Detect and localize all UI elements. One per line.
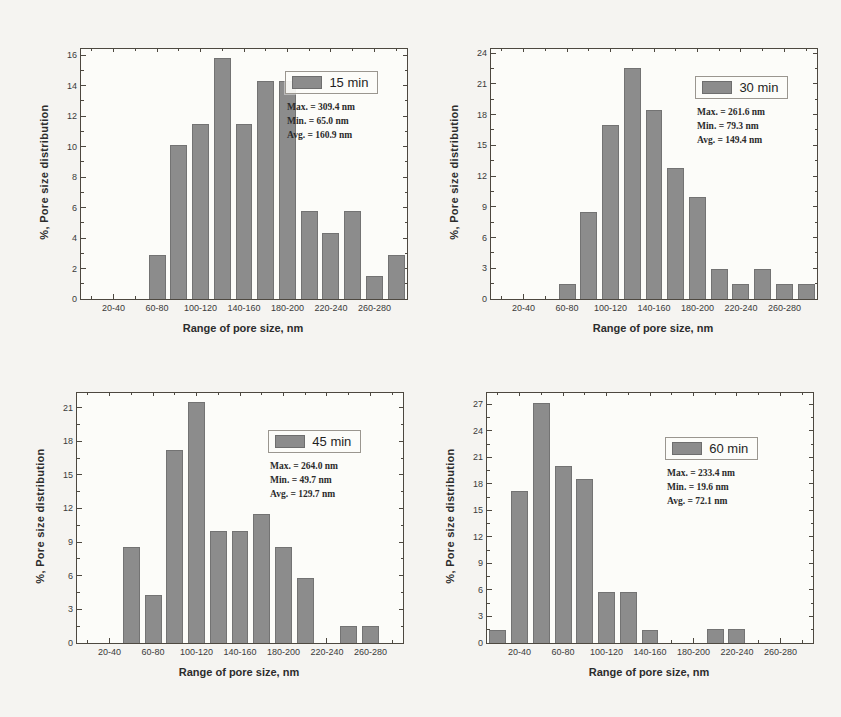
y-minor-tick	[487, 576, 490, 577]
bar	[145, 595, 162, 643]
y-major-tick	[809, 616, 813, 617]
x-tick	[374, 49, 375, 52]
x-tick	[261, 393, 262, 395]
bar	[728, 629, 745, 643]
y-minor-tick	[491, 283, 494, 284]
y-axis-title: %, Pore size distribution	[38, 47, 50, 297]
y-minor-tick	[77, 592, 80, 593]
y-minor-tick	[405, 131, 407, 132]
x-tick	[370, 393, 371, 396]
x-tick	[326, 393, 327, 396]
y-minor-tick	[811, 444, 813, 445]
y-minor-tick	[487, 470, 490, 471]
bar	[620, 592, 637, 643]
x-tick	[305, 393, 306, 395]
y-major-tick	[813, 237, 817, 238]
y-tick-label: 12	[457, 532, 483, 542]
x-tick	[87, 393, 88, 395]
y-minor-tick	[811, 523, 813, 524]
y-major-tick	[403, 238, 407, 239]
plot-area: 036912151821242720-4060-80100-120140-160…	[486, 392, 814, 644]
y-minor-tick	[405, 100, 407, 101]
y-major-tick	[813, 83, 817, 84]
x-tick	[244, 49, 245, 52]
stats-annotation: Max. = 264.0 nm Min. = 49.7 nm Avg. = 12…	[270, 459, 338, 501]
x-tick-label: 140-160	[637, 303, 670, 313]
y-major-tick	[403, 177, 407, 178]
y-minor-tick	[401, 458, 403, 459]
stats-annotation: Max. = 309.4 nm Min. = 65.0 nm Avg. = 16…	[287, 100, 355, 142]
y-tick-label: 14	[51, 81, 77, 91]
y-major-tick	[487, 510, 492, 511]
x-tick	[697, 49, 698, 52]
y-minor-tick	[401, 558, 403, 559]
y-major-tick	[487, 430, 492, 431]
y-major-tick	[809, 404, 813, 405]
y-minor-tick	[491, 99, 494, 100]
y-tick-label: 9	[47, 537, 73, 547]
y-minor-tick	[405, 192, 407, 193]
y-minor-tick	[487, 497, 490, 498]
stat-min: Min. = 65.0 nm	[287, 114, 355, 128]
y-major-tick	[491, 206, 496, 207]
x-tick	[675, 49, 676, 51]
y-minor-tick	[77, 458, 80, 459]
legend-label: 15 min	[329, 75, 368, 90]
x-tick	[606, 393, 607, 396]
y-tick-label: 3	[461, 263, 487, 273]
x-tick	[109, 393, 110, 396]
y-axis-title: %, Pore size distribution	[34, 391, 46, 641]
y-minor-tick	[405, 161, 407, 162]
x-tick	[501, 49, 502, 51]
stats-annotation: Max. = 233.4 nm Min. = 19.6 nm Avg. = 72…	[667, 466, 735, 508]
x-tick	[671, 640, 672, 643]
x-tick	[693, 393, 694, 396]
y-major-tick	[399, 474, 403, 475]
y-minor-tick	[77, 558, 80, 559]
x-tick	[135, 49, 136, 51]
y-minor-tick	[815, 191, 817, 192]
x-tick	[352, 49, 353, 51]
y-major-tick	[491, 145, 496, 146]
y-major-tick	[399, 407, 403, 408]
bar	[232, 531, 249, 643]
bar	[776, 284, 793, 299]
x-axis-title: Range of pore size, nm	[490, 322, 816, 334]
bar	[149, 255, 166, 299]
y-tick-label: 9	[461, 202, 487, 212]
y-minor-tick	[811, 629, 813, 630]
x-tick	[567, 49, 568, 52]
y-tick-label: 18	[457, 479, 483, 489]
y-major-tick	[813, 206, 817, 207]
chart-60min: %, Pore size distribution 03691215182124…	[434, 374, 826, 706]
y-tick-label: 16	[51, 50, 77, 60]
x-tick	[806, 49, 807, 51]
y-minor-tick	[81, 222, 84, 223]
x-tick	[87, 640, 88, 643]
x-tick	[200, 49, 201, 52]
y-tick-label: 6	[51, 203, 77, 213]
y-major-tick	[77, 609, 82, 610]
y-tick-label: 18	[461, 110, 487, 120]
y-major-tick	[77, 575, 82, 576]
y-minor-tick	[491, 68, 494, 69]
x-tick	[113, 294, 114, 299]
x-tick-label: 260-280	[354, 647, 387, 657]
x-tick	[501, 296, 502, 299]
x-tick	[131, 393, 132, 395]
y-tick-label: 21	[47, 403, 73, 413]
y-major-tick	[491, 114, 496, 115]
y-minor-tick	[81, 131, 84, 132]
y-minor-tick	[77, 626, 80, 627]
y-major-tick	[77, 441, 82, 442]
y-tick-label: 24	[457, 426, 483, 436]
x-tick	[802, 640, 803, 643]
x-tick	[780, 393, 781, 396]
bar	[533, 403, 550, 643]
x-tick	[396, 49, 397, 51]
y-major-tick	[813, 145, 817, 146]
y-minor-tick	[815, 283, 817, 284]
x-tick	[157, 49, 158, 52]
y-minor-tick	[815, 160, 817, 161]
x-tick	[348, 393, 349, 395]
